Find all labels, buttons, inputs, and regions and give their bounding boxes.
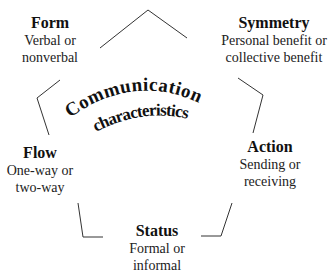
node-flow-desc-line1: One-way or	[0, 162, 80, 179]
node-form-title: Form	[2, 13, 98, 32]
connector-bottom-right	[201, 203, 232, 236]
node-action-title: Action	[228, 137, 312, 156]
node-flow-title: Flow	[0, 143, 80, 162]
node-flow: Flow One-way or two-way	[0, 143, 80, 196]
node-symmetry: Symmetry Personal benefit or collective …	[212, 13, 336, 66]
node-action: Action Sending or receiving	[228, 137, 312, 190]
connector-top	[100, 10, 187, 48]
node-status-desc-line2: informal	[117, 257, 197, 274]
connector-left	[37, 80, 60, 135]
node-form-desc-line2: nonverbal	[2, 49, 98, 66]
communication-characteristics-diagram: Communication characteristics Form Verba…	[0, 0, 336, 275]
node-form-desc-line1: Verbal or	[2, 32, 98, 49]
center-title-line2: characteristics	[89, 100, 191, 135]
node-symmetry-desc-line2: collective benefit	[212, 49, 336, 66]
connector-bottom-left	[78, 203, 103, 237]
center-title-line2-path: characteristics	[89, 100, 191, 135]
node-status-title: Status	[117, 221, 197, 240]
node-action-desc-line2: receiving	[228, 173, 312, 190]
node-status-desc-line1: Formal or	[117, 240, 197, 257]
connector-right	[238, 78, 263, 133]
node-action-desc-line1: Sending or	[228, 156, 312, 173]
node-flow-desc-line2: two-way	[0, 179, 80, 196]
node-form: Form Verbal or nonverbal	[2, 13, 98, 66]
node-symmetry-title: Symmetry	[212, 13, 336, 32]
node-status: Status Formal or informal	[117, 221, 197, 274]
node-symmetry-desc-line1: Personal benefit or	[212, 32, 336, 49]
